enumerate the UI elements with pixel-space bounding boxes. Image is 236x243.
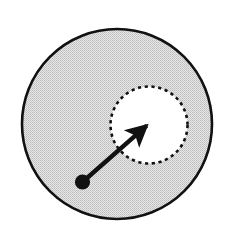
origin-point [75, 174, 90, 189]
diagram-canvas [0, 0, 236, 243]
inner-disk [111, 87, 188, 164]
figure-root [0, 0, 236, 243]
